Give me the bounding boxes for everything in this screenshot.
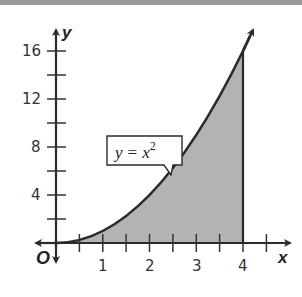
x-tick-label-1: 1	[98, 257, 108, 275]
y-tick-label-16: 16	[22, 42, 41, 60]
x-tick-label-3: 3	[192, 257, 202, 275]
equation-label: y=x2	[113, 139, 156, 162]
x-tick-label-4: 4	[238, 257, 248, 275]
y-axis-label: y	[61, 23, 73, 42]
x-axis-label: x	[277, 248, 289, 267]
x-tick-label-2: 2	[145, 257, 155, 275]
y-tick-label-8: 8	[31, 138, 41, 156]
chart-canvas: 1 2 3 4 4 8 12 16 x y O y=x2	[0, 0, 302, 297]
y-tick-label-12: 12	[22, 90, 41, 108]
origin-label: O	[36, 248, 50, 268]
y-tick-label-4: 4	[31, 186, 41, 204]
